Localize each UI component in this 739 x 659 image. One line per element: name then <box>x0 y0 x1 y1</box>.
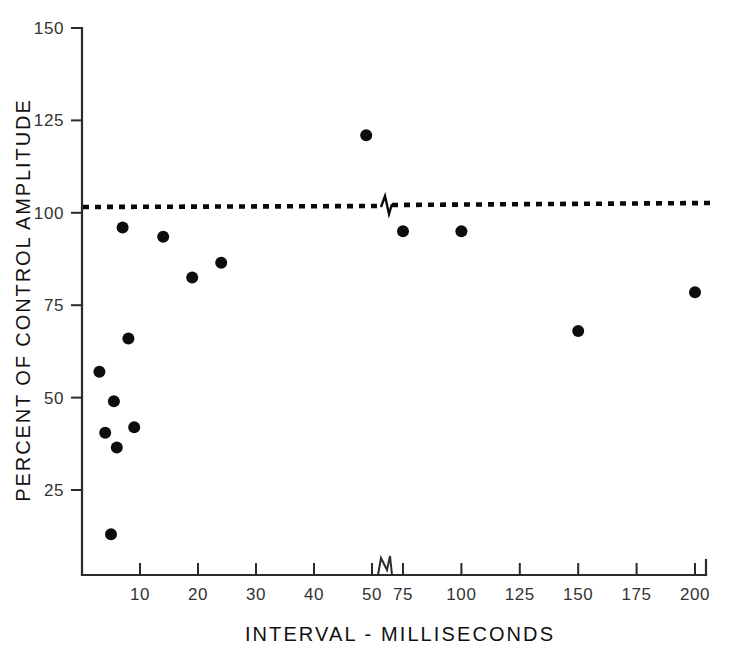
x-axis-break-mark <box>378 556 392 575</box>
data-point <box>108 395 120 407</box>
x-axis-tick-label: 100 <box>446 585 476 604</box>
x-axis-tick-label: 150 <box>563 585 593 604</box>
x-axis-tick-label: 200 <box>680 585 710 604</box>
y-axis-ticks <box>71 28 82 490</box>
data-point <box>157 231 169 243</box>
y-axis-title: PERCENT OF CONTROL AMPLITUDE <box>12 98 34 501</box>
y-axis-tick-label: 125 <box>34 111 64 130</box>
data-point <box>105 528 117 540</box>
data-point <box>455 225 467 237</box>
axes-group <box>82 28 706 575</box>
x-axis-tick-label: 50 <box>362 585 382 604</box>
x-axis-tick-label: 10 <box>130 585 150 604</box>
x-axis-title: INTERVAL - MILLISECONDS <box>245 623 555 645</box>
data-point <box>689 286 701 298</box>
reference-line-right-segment <box>392 203 711 205</box>
x-axis-ticks <box>140 563 695 575</box>
plot-canvas: 255075100125150 102030405075100125150175… <box>0 0 739 659</box>
data-point <box>93 366 105 378</box>
y-axis-tick-label: 25 <box>44 481 64 500</box>
data-point <box>117 222 129 234</box>
y-axis-tick-label: 150 <box>34 19 64 38</box>
data-point <box>572 325 584 337</box>
data-point <box>360 129 372 141</box>
reference-line-left-segment <box>83 206 381 207</box>
data-point <box>99 427 111 439</box>
data-point <box>397 225 409 237</box>
scatter-plot-figure: 255075100125150 102030405075100125150175… <box>0 0 739 659</box>
data-point <box>215 257 227 269</box>
x-axis-tick-label: 125 <box>505 585 535 604</box>
data-point <box>128 421 140 433</box>
data-point <box>111 441 123 453</box>
x-axis-tick-label: 30 <box>246 585 266 604</box>
y-axis-tick-label: 50 <box>44 389 64 408</box>
x-axis-tick-label: 175 <box>622 585 652 604</box>
y-axis-tick-labels: 255075100125150 <box>34 19 64 500</box>
reference-line-group <box>83 196 711 214</box>
x-axis-tick-labels: 102030405075100125150175200 <box>130 585 710 604</box>
x-axis-tick-label: 40 <box>304 585 324 604</box>
data-point <box>122 332 134 344</box>
y-axis-tick-label: 75 <box>44 296 64 315</box>
x-axis-tick-label: 75 <box>393 585 413 604</box>
data-point <box>186 271 198 283</box>
x-axis-tick-label: 20 <box>188 585 208 604</box>
y-axis-tick-label: 100 <box>34 204 64 223</box>
data-points-group <box>93 129 701 540</box>
reference-line-break-mark <box>381 196 392 214</box>
